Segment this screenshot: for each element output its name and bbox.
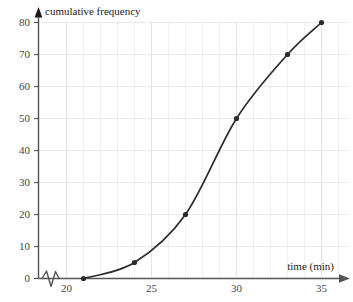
data-point	[234, 116, 239, 121]
y-tick-label: 30	[19, 176, 31, 188]
x-axis-title: time (min)	[287, 260, 334, 273]
y-tick-label: 40	[19, 144, 31, 156]
x-axis-tick-labels: 20 25 30 35	[61, 282, 328, 294]
data-point	[183, 212, 188, 217]
cumulative-frequency-chart: 80 70 60 50 40 30 20 10 0 20 25 30 35 cu…	[0, 0, 353, 302]
y-tick-label: 80	[19, 16, 31, 28]
y-axis-arrow-icon	[35, 7, 43, 18]
y-tick-label: 20	[19, 208, 31, 220]
data-point	[81, 276, 86, 281]
data-point	[319, 20, 324, 25]
x-tick-label: 25	[146, 282, 158, 294]
x-tick-label: 30	[231, 282, 243, 294]
data-point	[132, 260, 137, 265]
y-tick-label: 0	[25, 272, 31, 284]
y-axis-tick-labels: 80 70 60 50 40 30 20 10 0	[19, 16, 31, 284]
data-point	[285, 52, 290, 57]
y-tick-label: 70	[19, 48, 31, 60]
x-tick-label: 35	[316, 282, 328, 294]
x-axis-arrow-icon	[339, 274, 350, 282]
y-axis	[35, 7, 43, 279]
y-tick-label: 60	[19, 80, 31, 92]
y-tick-label: 10	[19, 240, 31, 252]
grid-vertical-minor	[84, 22, 339, 277]
grid-horizontal	[38, 23, 348, 247]
y-axis-title: cumulative frequency	[45, 5, 141, 17]
chart-canvas: 80 70 60 50 40 30 20 10 0 20 25 30 35 cu…	[0, 0, 353, 302]
x-tick-label: 20	[61, 282, 73, 294]
y-tick-label: 50	[19, 112, 31, 124]
